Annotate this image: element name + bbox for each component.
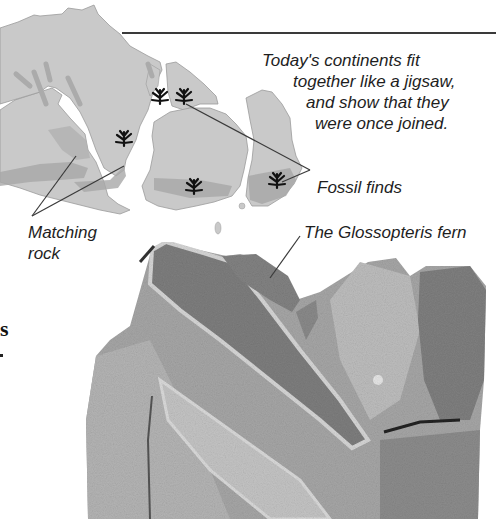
caption-line: Matching bbox=[28, 222, 97, 243]
textbook-page: Today's continents fit together like a j… bbox=[0, 0, 496, 519]
continents-caption: Today's continents fit together like a j… bbox=[262, 50, 456, 134]
fossil-finds-label: Fossil finds bbox=[317, 177, 402, 198]
cut-off-text-fragment bbox=[0, 354, 3, 357]
matching-rock-label: Matching rock bbox=[28, 222, 97, 264]
cut-off-heading-fragment: s bbox=[0, 318, 9, 340]
caption-line: Today's continents fit bbox=[262, 50, 456, 71]
glossopteris-fern-label: The Glossopteris fern bbox=[304, 222, 467, 243]
caption-line: rock bbox=[28, 243, 97, 264]
caption-line: together like a jigsaw, bbox=[262, 71, 456, 92]
caption-line: and show that they bbox=[262, 92, 456, 113]
caption-line: were once joined. bbox=[262, 113, 456, 134]
